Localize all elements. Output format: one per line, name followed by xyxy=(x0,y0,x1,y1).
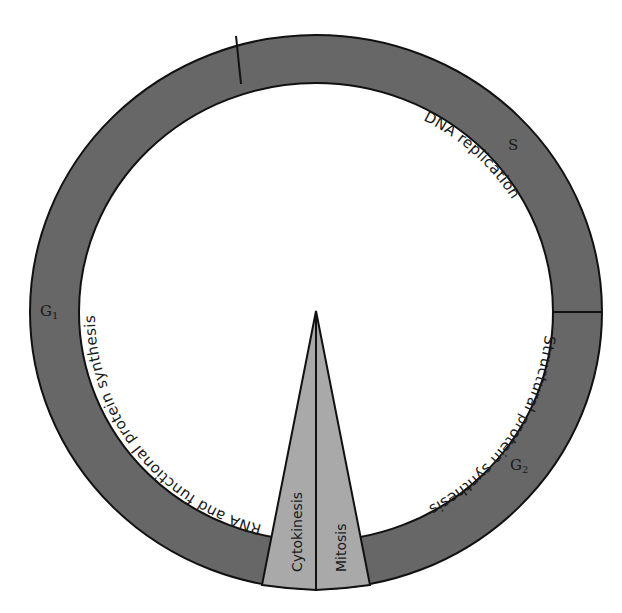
cell-cycle-diagram: G1 S G2 DNA replication Structural prote… xyxy=(0,0,622,613)
wedge-label-cytokinesis: Cytokinesis xyxy=(289,492,305,572)
phase-label-s: S xyxy=(508,136,518,154)
wedge-label-mitosis: Mitosis xyxy=(333,523,349,572)
